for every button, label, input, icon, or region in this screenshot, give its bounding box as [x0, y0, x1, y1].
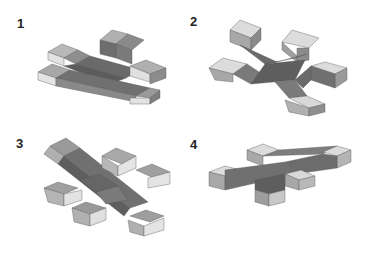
- figure-1-panel: 1: [0, 0, 184, 127]
- figure-4-panel: 4: [185, 128, 369, 255]
- figure-2-polycube: [185, 0, 369, 127]
- figure-2-panel: 2: [185, 0, 369, 127]
- figure-3-polycube: [0, 128, 184, 255]
- figure-4-polycube: [185, 128, 369, 255]
- figure-3-panel: 3: [0, 128, 184, 255]
- figure-1-polycube: [0, 0, 184, 127]
